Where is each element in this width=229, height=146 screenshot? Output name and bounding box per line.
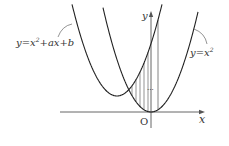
y-axis-arrow-icon [149, 11, 153, 17]
left-curve-label: y=x2+ax+b [15, 36, 74, 48]
y-axis-label: y [141, 10, 148, 21]
right-label-leader-line [194, 29, 207, 44]
ellipsis-dots: ··· [147, 86, 154, 94]
x-axis-label: x [199, 113, 206, 126]
curve-y-equals-x-squared-plus-ax-plus-b [72, 4, 162, 96]
left-label-leader-line [58, 24, 72, 37]
parabola-diagram: x y O ··· y=x2+ax+b y=x2 [0, 0, 229, 146]
right-curve-label: y=x2 [189, 46, 214, 58]
origin-label: O [140, 116, 148, 127]
